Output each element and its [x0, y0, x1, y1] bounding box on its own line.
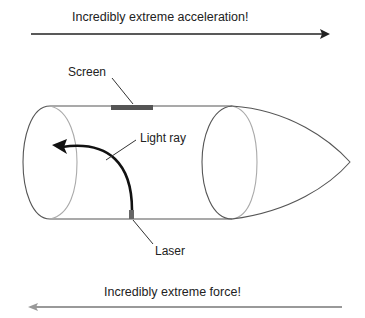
force-arrow [28, 303, 342, 311]
rocket-diagram [0, 0, 365, 318]
rocket-body [23, 106, 350, 219]
laser-label: Laser [155, 244, 185, 258]
light-ray [52, 139, 132, 210]
acceleration-arrow [31, 29, 330, 39]
screen-leader [112, 78, 133, 104]
screen-label: Screen [68, 65, 106, 79]
screen-plate [111, 105, 153, 110]
light-ray-leader [106, 140, 136, 160]
acceleration-label: Incredibly extreme acceleration! [72, 10, 248, 24]
force-label: Incredibly extreme force! [104, 285, 241, 299]
laser-leader [133, 220, 153, 244]
light-ray-label: Light ray [140, 131, 186, 145]
laser-device [129, 210, 134, 219]
